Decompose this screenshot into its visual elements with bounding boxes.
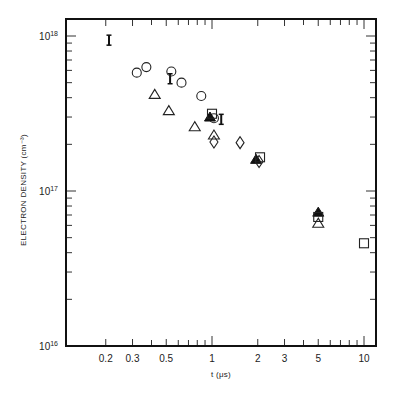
data-point-filled-triangle xyxy=(313,207,324,216)
x-tick-label: 3 xyxy=(282,353,288,364)
x-tick-label: 0.2 xyxy=(99,353,113,364)
chart: 0.20.30.5123510 101610171018 t (μs) ELEC… xyxy=(0,0,394,395)
data-point-circle xyxy=(167,67,176,76)
x-tick-label: 5 xyxy=(315,353,321,364)
axis-ticks xyxy=(66,19,376,346)
y-tick-labels: 101610171018 xyxy=(39,30,58,352)
y-tick-label: 1018 xyxy=(39,30,58,42)
data-point-diamond xyxy=(236,137,244,149)
x-tick-label: 0.3 xyxy=(126,353,140,364)
data-point-triangle xyxy=(313,218,324,227)
data-point-triangle xyxy=(163,106,174,115)
x-axis-title: t (μs) xyxy=(211,370,231,379)
x-tick-label: 10 xyxy=(358,353,370,364)
data-point-square xyxy=(360,239,369,248)
data-point-circle xyxy=(197,92,206,101)
data-point-triangle xyxy=(189,122,200,131)
plot-frame xyxy=(66,19,376,346)
x-tick-label: 2 xyxy=(255,353,261,364)
x-tick-label: 0.5 xyxy=(159,353,173,364)
data-point-diamond xyxy=(210,136,218,148)
data-point-circle xyxy=(177,78,186,87)
data-point-triangle xyxy=(149,89,160,98)
data-point-error-bar xyxy=(106,35,111,45)
y-tick-label: 1016 xyxy=(39,340,58,352)
y-tick-label: 1017 xyxy=(39,185,58,197)
data-points xyxy=(106,35,368,248)
data-point-triangle xyxy=(208,130,219,139)
x-tick-labels: 0.20.30.5123510 xyxy=(99,353,370,364)
data-point-error-bar xyxy=(219,114,224,124)
data-point-circle xyxy=(132,68,141,77)
x-tick-label: 1 xyxy=(209,353,215,364)
y-axis-title: ELECTRON DENSITY (cm⁻³) xyxy=(19,134,28,246)
data-point-circle xyxy=(142,63,151,72)
